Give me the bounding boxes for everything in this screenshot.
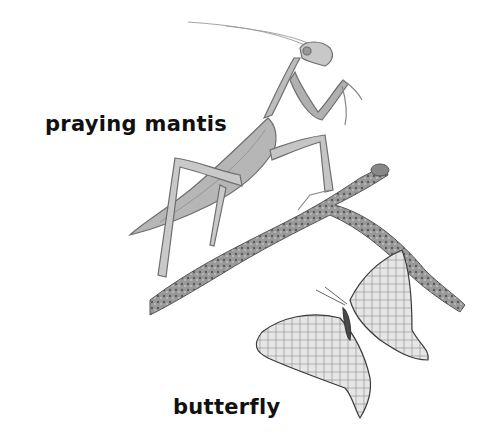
illustration-canvas: praying mantis butterfly <box>0 0 477 443</box>
praying-mantis <box>130 22 362 277</box>
butterfly <box>256 250 428 418</box>
insect-illustration <box>0 0 477 443</box>
label-butterfly: butterfly <box>173 395 280 419</box>
label-praying-mantis: praying mantis <box>45 112 227 136</box>
